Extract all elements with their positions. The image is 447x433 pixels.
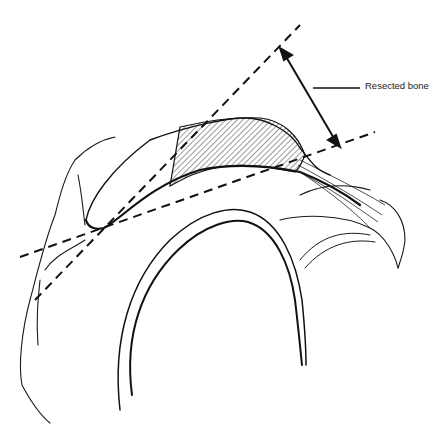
shoulder-drawing <box>0 0 447 433</box>
anatomical-illustration: Resected bone <box>0 0 447 433</box>
scapula-outline <box>20 137 115 423</box>
resected-bone-label: Resected bone <box>365 80 429 91</box>
glenoid-lines <box>300 233 375 268</box>
ligament-fibers <box>296 160 385 228</box>
resected-region <box>170 118 305 186</box>
humeral-head <box>118 209 306 410</box>
